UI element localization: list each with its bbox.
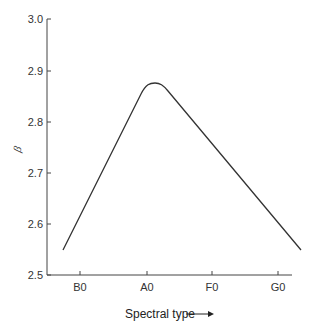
chart: 2.5 2.6 2.7 2.8 2.9 3.0 B0 A0 F0 G0 β Sp… — [0, 0, 314, 326]
x-ticks — [80, 271, 278, 275]
svg-text:2.8: 2.8 — [28, 116, 43, 128]
svg-text:2.5: 2.5 — [28, 269, 43, 281]
x-tick-labels: B0 A0 F0 G0 — [73, 281, 285, 293]
svg-text:G0: G0 — [271, 281, 286, 293]
svg-text:B0: B0 — [73, 281, 86, 293]
svg-text:2.6: 2.6 — [28, 218, 43, 230]
svg-text:2.9: 2.9 — [28, 65, 43, 77]
beta-curve — [63, 83, 301, 250]
y-axis-label: β — [10, 144, 23, 154]
y-ticks — [47, 19, 51, 275]
y-tick-labels: 2.5 2.6 2.7 2.8 2.9 3.0 — [28, 13, 43, 281]
x-axis-label: Spectral type — [125, 307, 195, 321]
svg-text:A0: A0 — [140, 281, 153, 293]
svg-text:2.7: 2.7 — [28, 167, 43, 179]
svg-text:F0: F0 — [206, 281, 219, 293]
svg-text:3.0: 3.0 — [28, 13, 43, 25]
